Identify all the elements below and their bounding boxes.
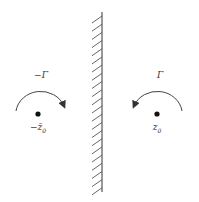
hatch-mark	[92, 155, 102, 162]
left-vortex	[16, 91, 64, 116]
hatch-mark	[92, 16, 102, 23]
counterclockwise-arrow-icon	[134, 91, 182, 111]
wall	[92, 12, 102, 195]
vortex-image-diagram: −Γ −z̄0 Γ z0	[0, 0, 199, 202]
hatch-mark	[92, 49, 102, 56]
left-position-label-sub: 0	[42, 127, 46, 134]
left-position-label: −z̄0	[30, 123, 46, 134]
hatch-mark	[92, 171, 102, 178]
hatch-mark	[92, 114, 102, 121]
hatch-mark	[92, 147, 102, 154]
hatch-mark	[92, 98, 102, 105]
left-vortex-point	[35, 111, 40, 116]
hatch-mark	[92, 122, 102, 129]
hatch-mark	[92, 32, 102, 39]
hatch-mark	[92, 90, 102, 97]
left-position-label-main: −z̄	[30, 122, 42, 132]
hatch-mark	[92, 106, 102, 113]
right-position-label-sub: 0	[157, 127, 161, 134]
right-vortex	[134, 91, 182, 116]
hatch-mark	[92, 188, 102, 195]
diagram-graphics	[0, 0, 199, 202]
hatch-mark	[92, 139, 102, 146]
hatch-mark	[92, 163, 102, 170]
hatch-mark	[92, 24, 102, 31]
hatch-mark	[92, 57, 102, 64]
hatch-mark	[92, 41, 102, 48]
hatch-mark	[92, 73, 102, 80]
right-circulation-label: Γ	[157, 71, 163, 80]
hatch-mark	[92, 180, 102, 187]
hatch-mark	[92, 65, 102, 72]
hatch-mark	[92, 81, 102, 88]
right-position-label: z0	[153, 123, 162, 134]
left-circulation-label: −Γ	[34, 71, 48, 80]
right-vortex-point	[154, 111, 159, 116]
clockwise-arrow-icon	[16, 91, 64, 111]
wall-hatching	[92, 16, 102, 195]
hatch-mark	[92, 131, 102, 138]
